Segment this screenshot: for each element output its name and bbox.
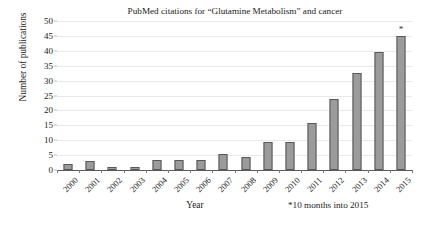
x-tick-label: 2001 <box>83 175 102 194</box>
chart-figure: PubMed citations for “Glutamine Metaboli… <box>0 0 423 226</box>
bar <box>352 73 361 170</box>
x-tick-mark <box>257 170 258 173</box>
bar-slot <box>235 21 257 170</box>
bar-slot <box>101 21 123 170</box>
x-tick-mark <box>345 170 346 173</box>
bar <box>263 142 272 170</box>
bar <box>241 157 250 170</box>
y-tick-label: 45 <box>44 31 53 41</box>
bar-slot <box>79 21 101 170</box>
x-tick-mark <box>279 170 280 173</box>
y-tick-label: 0 <box>49 165 54 175</box>
y-tick-label: 35 <box>44 61 53 71</box>
x-tick-label: 2000 <box>61 175 80 194</box>
bar <box>396 36 405 170</box>
bar <box>285 142 294 170</box>
x-tick-label: 2014 <box>372 175 391 194</box>
x-tick-mark <box>368 170 369 173</box>
x-tick-mark <box>412 170 413 173</box>
bar-slot <box>301 21 323 170</box>
x-tick-mark <box>124 170 125 173</box>
bar <box>330 99 339 170</box>
x-tick-label: 2007 <box>216 175 235 194</box>
x-tick-label: 2010 <box>283 175 302 194</box>
plot-area: 05101520253035404550 * 20002001200220032… <box>57 21 412 170</box>
y-tick-label: 40 <box>44 46 53 56</box>
x-tick-label: 2005 <box>172 175 191 194</box>
y-tick-label: 15 <box>44 120 53 130</box>
x-tick-mark <box>390 170 391 173</box>
bar-slot: * <box>390 21 412 170</box>
x-tick-mark <box>57 170 58 173</box>
x-tick-label: 2012 <box>327 175 346 194</box>
bar-slot <box>190 21 212 170</box>
bar-slot <box>323 21 345 170</box>
bar-annotation-asterisk: * <box>399 26 404 33</box>
x-tick-mark <box>168 170 169 173</box>
x-tick-label: 2002 <box>105 175 124 194</box>
bar-series: * <box>57 21 412 170</box>
x-tick-label: 2011 <box>305 175 324 194</box>
x-tick-label: 2013 <box>349 175 368 194</box>
bar-slot <box>345 21 367 170</box>
y-tick-label: 25 <box>44 91 53 101</box>
x-tick-label: 2008 <box>238 175 257 194</box>
chart-title: PubMed citations for “Glutamine Metaboli… <box>60 6 410 17</box>
chart-footnote: *10 months into 2015 <box>288 200 368 210</box>
bar-slot <box>168 21 190 170</box>
x-tick-label: 2009 <box>261 175 280 194</box>
bar <box>152 160 161 170</box>
x-tick-mark <box>101 170 102 173</box>
x-tick-label: 2015 <box>394 175 413 194</box>
bar <box>197 160 206 170</box>
x-tick-mark <box>146 170 147 173</box>
x-tick-label: 2004 <box>150 175 169 194</box>
x-tick-mark <box>212 170 213 173</box>
x-tick-mark <box>235 170 236 173</box>
bar <box>108 167 117 170</box>
x-tick-mark <box>190 170 191 173</box>
bar <box>64 164 73 170</box>
bar <box>219 154 228 170</box>
bar-slot <box>368 21 390 170</box>
bar-slot <box>257 21 279 170</box>
x-axis-title: Year <box>150 200 240 210</box>
bar <box>86 161 95 170</box>
bar-slot <box>212 21 234 170</box>
bar-slot <box>146 21 168 170</box>
y-tick-label: 5 <box>49 150 54 160</box>
y-tick-label: 10 <box>44 135 53 145</box>
bar-slot <box>124 21 146 170</box>
x-tick-label: 2003 <box>128 175 147 194</box>
x-tick-mark <box>301 170 302 173</box>
bar-slot <box>57 21 79 170</box>
y-tick-label: 30 <box>44 76 53 86</box>
y-axis-title: Number of publications <box>18 0 28 122</box>
bar <box>308 123 317 170</box>
bar <box>175 160 184 170</box>
bar <box>130 167 139 170</box>
x-tick-mark <box>79 170 80 173</box>
bar-slot <box>279 21 301 170</box>
bar <box>374 52 383 170</box>
y-tick-label: 20 <box>44 105 53 115</box>
x-tick-label: 2006 <box>194 175 213 194</box>
y-tick-label: 50 <box>44 16 53 26</box>
x-tick-mark <box>323 170 324 173</box>
